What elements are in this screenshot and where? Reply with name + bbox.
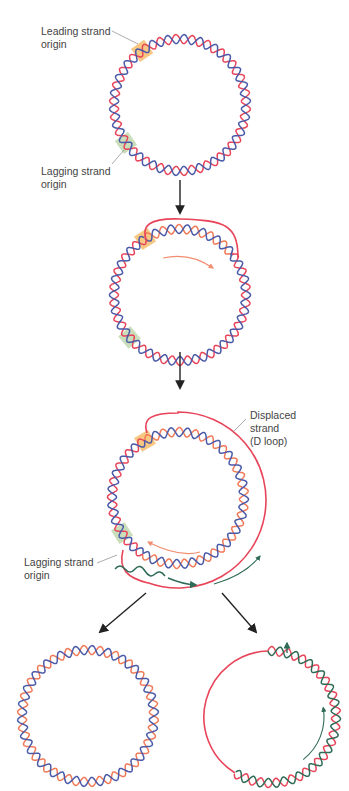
- lagging-synthesis-progress-arrow: [303, 708, 324, 760]
- stage-4a-daughter-molecule: [18, 646, 159, 787]
- label-displaced-strand-d-loop: Displaced strand (D loop): [250, 409, 296, 448]
- displaced-strand-d-loop-end: [122, 550, 148, 583]
- stage1-helix-strand-b: [110, 35, 251, 176]
- leader-line-lagging-origin-2: [97, 555, 117, 563]
- leading-synthesis-direction-arrow: [148, 542, 200, 554]
- stage-4b-daughter-molecule: [204, 643, 341, 788]
- lagging-synthesis-arrow-1: [168, 578, 196, 585]
- label-leading-strand-origin: Leading strand origin: [41, 25, 110, 51]
- stage1-helix-strand-a: [110, 35, 251, 176]
- lagging-synthesis-arrow-2: [214, 556, 260, 584]
- stage-1-parental-circle: [110, 35, 251, 176]
- single-strand-parental-region: [204, 651, 268, 773]
- stage4a-helix-strand-a: [18, 646, 159, 787]
- label-lagging-strand-origin-2: Lagging strand origin: [24, 556, 93, 582]
- leader-line-leading-origin: [112, 31, 138, 44]
- leader-line-displaced-strand: [233, 419, 246, 432]
- flow-arrow-3-left: [100, 593, 146, 632]
- stage4b-helix-strand-b: [236, 647, 341, 787]
- label-lagging-strand-origin-1: Lagging strand origin: [41, 165, 110, 191]
- leader-line-lagging-origin-1: [112, 150, 124, 164]
- displaced-strand-small-loop: [145, 219, 238, 258]
- stage-2-leading-synthesis: [110, 219, 251, 366]
- flow-arrow-3-right: [222, 593, 256, 632]
- lagging-strand-new-helix: [115, 566, 165, 576]
- stage-3-d-loop: [108, 412, 266, 588]
- stage4a-helix-strand-b: [18, 646, 159, 787]
- stage2-replicated-strand-b: [145, 225, 233, 256]
- d-loop-replication-diagram: [0, 0, 349, 791]
- stage2-parental-strand-a: [110, 241, 250, 366]
- leading-synthesis-direction-arrow: [163, 256, 213, 268]
